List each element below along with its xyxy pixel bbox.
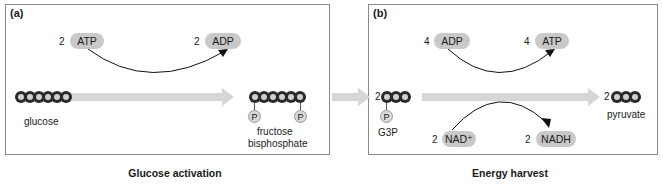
adp-coefficient: 2 (194, 36, 200, 47)
g3p-coefficient: 2 (375, 91, 381, 102)
bisphosphate-label: bisphosphate (248, 138, 308, 149)
nadh-pill: NADH (536, 131, 576, 147)
fructose-label: fructose (257, 126, 293, 137)
pathway-overlay (0, 0, 663, 186)
adp-pill: ADP (205, 33, 241, 49)
panel-a-caption: Glucose activation (110, 167, 240, 179)
panel-b-caption: Energy harvest (445, 167, 575, 179)
atp-out-pill: ATP (535, 33, 569, 49)
atp-out-coefficient: 4 (524, 36, 530, 47)
phosphate-bond-left (254, 103, 255, 110)
phosphate-left: P (248, 110, 261, 123)
g3p-phosphate-bond (386, 103, 387, 110)
pyruvate-coefficient: 2 (604, 91, 610, 102)
phosphate-right: P (294, 110, 307, 123)
nad-coefficient: 2 (432, 134, 438, 145)
g3p-label: G3P (378, 127, 398, 138)
adp-in-coefficient: 4 (424, 36, 430, 47)
pyruvate-label: pyruvate (607, 109, 645, 120)
g3p-phosphate: P (380, 110, 393, 123)
adp-in-pill: ADP (434, 33, 470, 49)
atp-pill: ATP (70, 33, 104, 49)
atp-coefficient: 2 (59, 36, 65, 47)
nadh-coefficient: 2 (525, 134, 531, 145)
phosphate-bond-right (300, 103, 301, 110)
glucose-label: glucose (24, 116, 58, 127)
nad-pill: NAD⁺ (442, 131, 476, 147)
